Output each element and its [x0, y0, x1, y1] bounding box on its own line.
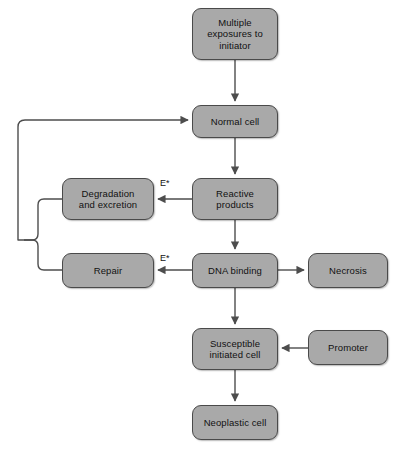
node-necrosis-label: Necrosis [326, 265, 370, 277]
node-susceptible-initiated-cell[interactable]: Susceptible initiated cell [192, 328, 278, 370]
node-degradation-and-excretion[interactable]: Degradation and excretion [62, 178, 154, 220]
node-degradation-and-excretion-label: Degradation and excretion [76, 188, 140, 211]
node-multiple-exposures[interactable]: Multiple exposures to initiator [192, 8, 278, 60]
node-repair-label: Repair [91, 265, 126, 277]
edge-label-enzyme-degradation: E* [160, 178, 170, 188]
node-normal-cell[interactable]: Normal cell [192, 105, 278, 138]
flowchart-canvas: Multiple exposures to initiator Normal c… [0, 0, 400, 455]
node-dna-binding-label: DNA binding [205, 265, 265, 277]
node-neoplastic-cell[interactable]: Neoplastic cell [192, 405, 278, 440]
node-normal-cell-label: Normal cell [208, 116, 263, 128]
node-reactive-products-label: Reactive products [213, 188, 257, 211]
node-multiple-exposures-label: Multiple exposures to initiator [204, 17, 266, 52]
flowchart-connectors [0, 0, 400, 455]
node-reactive-products[interactable]: Reactive products [192, 178, 278, 220]
edge-repair-feedback [24, 240, 62, 270]
node-susceptible-initiated-cell-label: Susceptible initiated cell [206, 338, 263, 361]
node-repair[interactable]: Repair [62, 253, 154, 288]
edge-label-enzyme-repair: E* [160, 253, 170, 263]
node-promoter[interactable]: Promoter [308, 330, 388, 365]
node-promoter-label: Promoter [325, 342, 371, 354]
edge-degradation-feedback [24, 199, 62, 240]
node-necrosis[interactable]: Necrosis [308, 253, 388, 288]
node-dna-binding[interactable]: DNA binding [192, 253, 278, 288]
node-neoplastic-cell-label: Neoplastic cell [201, 417, 270, 429]
